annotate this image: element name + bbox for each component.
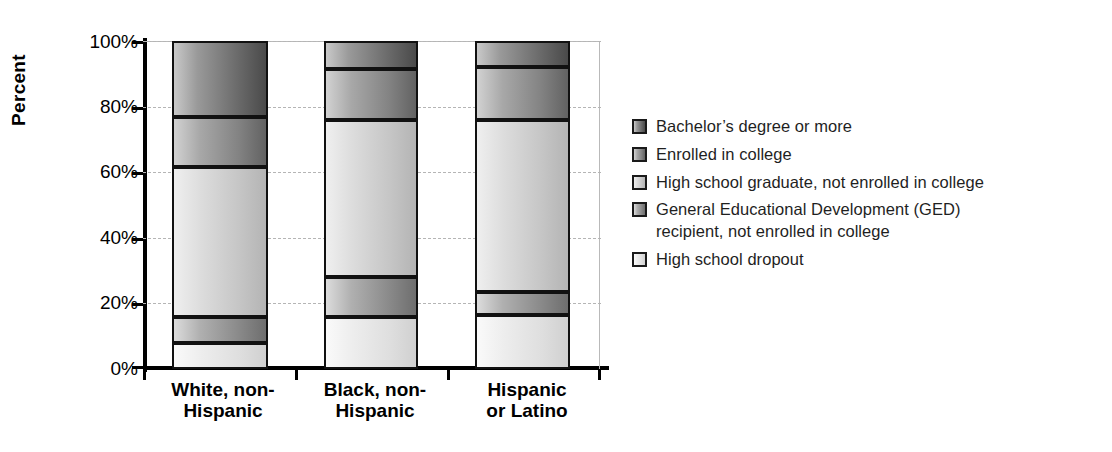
legend-item-bachelors-degree-or-more[interactable]: Bachelor’s degree or more [632, 116, 1110, 138]
bar-hispanic-or-latino[interactable] [475, 41, 570, 369]
y-axis-title: Percent [8, 10, 48, 170]
chart-figure: Percent 100% 80% 60% 40% 20% 0% [0, 0, 1112, 452]
bar-segment-bachelors-degree-or-more[interactable] [172, 41, 268, 117]
legend-item-ged-recipient[interactable]: General Educational Development (GED) re… [632, 199, 1110, 243]
legend-item-enrolled-in-college[interactable]: Enrolled in college [632, 144, 1110, 166]
y-tick-label-60: 60% [68, 162, 138, 181]
legend-item-high-school-graduate[interactable]: High school graduate, not enrolled in co… [632, 172, 1110, 194]
y-tickmark-100 [132, 41, 143, 44]
bar-segment-enrolled-in-college[interactable] [172, 117, 268, 168]
bar-segment-high-school-dropout[interactable] [475, 315, 570, 369]
legend-swatch-icon [632, 252, 647, 267]
x-tick-label-white-non-hispanic: White, non- Hispanic [143, 379, 303, 422]
bar-white-non-hispanic[interactable] [172, 41, 268, 369]
y-tick-label-100: 100% [68, 32, 138, 51]
legend: Bachelor’s degree or more Enrolled in co… [632, 116, 1110, 277]
bar-segment-high-school-graduate[interactable] [324, 120, 418, 277]
y-tickmark-20 [132, 303, 143, 306]
legend-swatch-icon [632, 175, 647, 190]
y-tick-label-20: 20% [68, 293, 138, 312]
legend-item-high-school-dropout[interactable]: High school dropout [632, 249, 1110, 271]
bar-segment-ged-recipient[interactable] [475, 292, 570, 315]
plot-area [143, 41, 601, 369]
bar-black-non-hispanic[interactable] [324, 41, 418, 369]
bar-segment-bachelors-degree-or-more[interactable] [475, 41, 570, 67]
bar-segment-enrolled-in-college[interactable] [324, 69, 418, 120]
legend-item-label: Bachelor’s degree or more [656, 116, 852, 138]
y-tickmark-0 [132, 366, 143, 369]
y-tick-label-40: 40% [68, 228, 138, 247]
y-tick-label-0: 0% [68, 359, 138, 378]
bar-segment-ged-recipient[interactable] [172, 317, 268, 343]
legend-swatch-icon [632, 202, 647, 217]
y-tickmark-80 [132, 107, 143, 110]
legend-item-label: Enrolled in college [656, 144, 792, 166]
y-tickmark-60 [132, 172, 143, 175]
bar-segment-enrolled-in-college[interactable] [475, 67, 570, 120]
bar-segment-high-school-dropout[interactable] [172, 343, 268, 369]
y-tick-label-80: 80% [68, 97, 138, 116]
legend-item-label: General Educational Development (GED) re… [656, 199, 961, 243]
y-axis-tick-labels: 100% 80% 60% 40% 20% 0% [62, 0, 138, 452]
y-tickmark-40 [132, 238, 143, 241]
bar-segment-high-school-graduate[interactable] [172, 167, 268, 316]
x-tick-label-hispanic-or-latino: Hispanic or Latino [447, 379, 607, 422]
bar-segment-ged-recipient[interactable] [324, 277, 418, 316]
x-tick-label-black-non-hispanic: Black, non- Hispanic [295, 379, 455, 422]
bar-segment-high-school-dropout[interactable] [324, 317, 418, 370]
bar-segment-bachelors-degree-or-more[interactable] [324, 41, 418, 69]
legend-swatch-icon [632, 147, 647, 162]
legend-swatch-icon [632, 119, 647, 134]
legend-item-label: High school graduate, not enrolled in co… [656, 172, 984, 194]
bar-segment-high-school-graduate[interactable] [475, 120, 570, 292]
legend-item-label: High school dropout [656, 249, 804, 271]
